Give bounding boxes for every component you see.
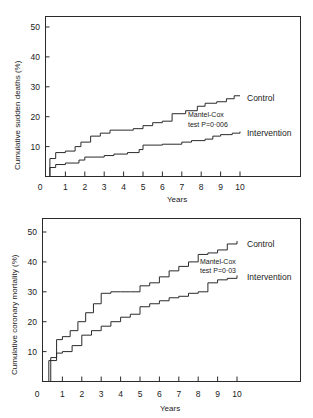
y-tick-label: 40 — [31, 52, 41, 62]
y-tick-label: 30 — [31, 82, 41, 92]
series-line-intervention — [46, 132, 240, 177]
x-tick-label: 0 — [38, 182, 43, 192]
x-tick-label: 6 — [157, 389, 162, 399]
y-tick-label: 20 — [31, 112, 41, 122]
x-tick-label: 10 — [235, 182, 245, 192]
x-tick-label: 8 — [199, 182, 204, 192]
y-tick-label: 50 — [31, 22, 41, 32]
x-tick-label: 5 — [141, 182, 146, 192]
x-tick-label: 1 — [63, 182, 68, 192]
series-lines — [46, 96, 240, 177]
x-tick-label: 8 — [196, 389, 201, 399]
x-tick-label: 10 — [232, 389, 242, 399]
series-label-control: Control — [247, 239, 275, 249]
x-axis-label: Years — [167, 195, 187, 204]
x-tick-label: 6 — [160, 182, 165, 192]
y-tick-label: 30 — [28, 287, 38, 297]
annotation-line2: test P=0·006 — [188, 121, 228, 128]
y-axis-ticks: 1020304050 — [28, 227, 47, 357]
x-tick-label: 3 — [99, 389, 104, 399]
series-label-intervention: Intervention — [247, 128, 292, 138]
x-tick-label: 1 — [60, 389, 65, 399]
x-tick-label: 4 — [121, 182, 126, 192]
series-line-control — [46, 96, 240, 177]
y-axis-label: Cumulative sudden deaths (%) — [13, 60, 22, 170]
y-tick-label: 50 — [28, 227, 38, 237]
y-tick-label: 10 — [31, 142, 41, 152]
y-tick-label: 10 — [28, 347, 38, 357]
x-axis-ticks: 012345678910 — [38, 172, 245, 193]
figure: 1020304050 012345678910 Years Cumulative… — [0, 0, 313, 418]
x-tick-label: 5 — [138, 389, 143, 399]
y-tick-label: 40 — [28, 257, 38, 267]
y-tick-label: 20 — [28, 317, 38, 327]
chart-sudden-deaths: 1020304050 012345678910 Years Cumulative… — [0, 0, 313, 205]
y-axis-ticks: 1020304050 — [31, 22, 50, 152]
annotation-line1: Mantel-Cox — [188, 111, 224, 118]
x-tick-label: 7 — [176, 389, 181, 399]
x-axis-label: Years — [160, 404, 180, 413]
x-tick-label: 4 — [118, 389, 123, 399]
x-tick-label: 3 — [102, 182, 107, 192]
annotation-line1: Mantel-Cox — [200, 258, 236, 265]
y-axis-label: Cumulative coronary mortality (%) — [10, 254, 19, 375]
annotation-line2: test P=0·03 — [200, 267, 236, 274]
series-label-intervention: Intervention — [247, 272, 292, 282]
x-tick-label: 9 — [218, 182, 223, 192]
x-axis-ticks: 012345678910 — [35, 377, 242, 400]
x-tick-label: 0 — [35, 389, 40, 399]
x-tick-label: 2 — [82, 182, 87, 192]
x-tick-label: 2 — [79, 389, 84, 399]
x-tick-label: 7 — [179, 182, 184, 192]
chart-coronary-mortality: 1020304050 012345678910 Years Cumulative… — [0, 210, 313, 418]
x-tick-label: 9 — [215, 389, 220, 399]
series-label-control: Control — [247, 93, 275, 103]
